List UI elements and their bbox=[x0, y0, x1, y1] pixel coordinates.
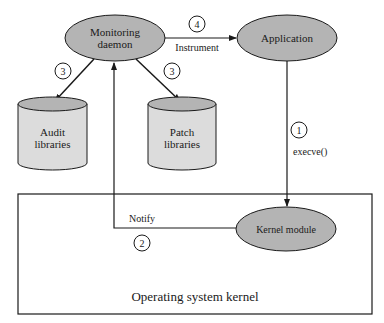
svg-text:4: 4 bbox=[195, 19, 200, 30]
patch-libraries-label-1: Patch bbox=[170, 126, 195, 138]
svg-text:1: 1 bbox=[297, 125, 302, 136]
monitoring-daemon-node: Monitoring daemon bbox=[65, 15, 165, 61]
audit-libraries-cylinder: Audit libraries bbox=[18, 97, 87, 170]
step-2-badge: 2 bbox=[134, 235, 150, 251]
svg-text:3: 3 bbox=[61, 66, 66, 77]
os-kernel-label: Operating system kernel bbox=[131, 289, 258, 304]
instrument-label: Instrument bbox=[175, 42, 219, 53]
kernel-module-label: Kernel module bbox=[256, 224, 316, 235]
monitoring-daemon-label-2: daemon bbox=[98, 38, 133, 50]
diagram-canvas: Operating system kernel Monitoring daemo… bbox=[0, 0, 384, 323]
patch-libraries-label-2: libraries bbox=[164, 138, 200, 150]
svg-text:3: 3 bbox=[170, 66, 175, 77]
kernel-module-node: Kernel module bbox=[236, 207, 336, 251]
step-3-badge-patch: 3 bbox=[164, 63, 180, 79]
execve-label: execve() bbox=[293, 146, 327, 158]
notify-label: Notify bbox=[129, 213, 155, 224]
audit-libraries-label-2: libraries bbox=[34, 138, 70, 150]
application-node: Application bbox=[237, 15, 337, 61]
step-1-badge: 1 bbox=[291, 122, 307, 138]
step-4-badge: 4 bbox=[189, 16, 205, 32]
audit-libraries-label-1: Audit bbox=[40, 126, 65, 138]
monitoring-daemon-label-1: Monitoring bbox=[90, 26, 141, 38]
application-label: Application bbox=[261, 32, 313, 44]
patch-libraries-cylinder: Patch libraries bbox=[148, 97, 216, 170]
svg-text:2: 2 bbox=[140, 238, 145, 249]
step-3-badge-audit: 3 bbox=[55, 63, 71, 79]
